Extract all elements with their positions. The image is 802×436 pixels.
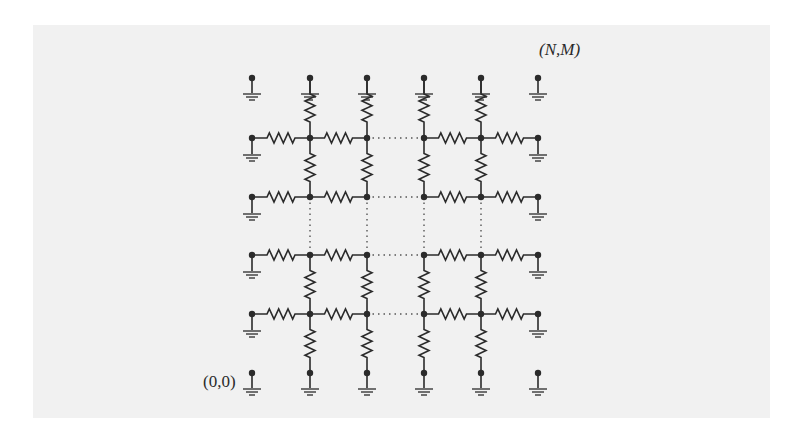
resistor	[419, 138, 429, 197]
ground-icon	[358, 389, 376, 395]
resistor	[481, 133, 538, 143]
node-dot	[478, 194, 484, 200]
node-dot	[535, 75, 541, 81]
resistor	[424, 192, 481, 202]
node-dot	[307, 194, 313, 200]
resistor	[310, 250, 367, 260]
node-dot	[249, 194, 255, 200]
node-dot	[478, 311, 484, 317]
node-dot	[535, 135, 541, 141]
resistor	[252, 192, 310, 202]
ground-icon	[243, 389, 261, 395]
ground-icon	[243, 272, 261, 278]
ground-icon	[472, 389, 490, 395]
resistor	[476, 255, 486, 314]
node-dot	[364, 135, 370, 141]
resistor	[252, 309, 310, 319]
node-dot	[478, 370, 484, 376]
ground-icon	[529, 94, 547, 100]
resistor	[476, 314, 486, 373]
node-dot	[307, 75, 313, 81]
node-dot	[535, 311, 541, 317]
resistor-grid-diagram	[0, 0, 802, 436]
node-dot	[307, 311, 313, 317]
ground-icon	[243, 331, 261, 337]
node-dot	[307, 135, 313, 141]
ground-icon	[529, 331, 547, 337]
node-dot	[249, 75, 255, 81]
node-dot	[421, 370, 427, 376]
ground-icon	[301, 389, 319, 395]
ground-icon	[529, 389, 547, 395]
node-dot	[535, 252, 541, 258]
resistor	[481, 250, 538, 260]
resistor	[362, 255, 372, 314]
resistor	[362, 138, 372, 197]
resistor	[419, 314, 429, 373]
ground-icon	[529, 214, 547, 220]
ground-icon	[529, 155, 547, 161]
node-dot	[535, 370, 541, 376]
resistor	[419, 255, 429, 314]
node-dot	[421, 252, 427, 258]
resistor	[424, 133, 481, 143]
node-dot	[307, 370, 313, 376]
node-dot	[421, 75, 427, 81]
ground-icon	[415, 389, 433, 395]
ground-icon	[529, 272, 547, 278]
corner-label-origin: (0,0)	[203, 372, 236, 392]
node-dot	[478, 75, 484, 81]
resistor	[362, 314, 372, 373]
node-dot	[478, 252, 484, 258]
ground-icon	[243, 214, 261, 220]
resistor	[252, 133, 310, 143]
node-dot	[364, 252, 370, 258]
resistor	[481, 309, 538, 319]
node-dot	[249, 135, 255, 141]
node-dot	[249, 370, 255, 376]
resistor	[424, 250, 481, 260]
node-dot	[364, 311, 370, 317]
node-dot	[421, 194, 427, 200]
resistor	[305, 138, 315, 197]
resistor	[310, 192, 367, 202]
node-dot	[307, 252, 313, 258]
resistor	[310, 309, 367, 319]
resistor	[310, 133, 367, 143]
node-dot	[478, 135, 484, 141]
node-dot	[421, 135, 427, 141]
node-dot	[249, 252, 255, 258]
ground-icon	[243, 155, 261, 161]
node-dot	[535, 194, 541, 200]
resistor	[305, 255, 315, 314]
resistor	[424, 309, 481, 319]
resistor	[305, 314, 315, 373]
node-dot	[249, 311, 255, 317]
resistor	[252, 250, 310, 260]
resistor	[481, 192, 538, 202]
node-dot	[364, 194, 370, 200]
corner-label-n-m: (N,M)	[539, 40, 580, 60]
ground-icon	[243, 94, 261, 100]
node-dot	[364, 75, 370, 81]
resistor	[476, 138, 486, 197]
node-dot	[364, 370, 370, 376]
node-dot	[421, 311, 427, 317]
